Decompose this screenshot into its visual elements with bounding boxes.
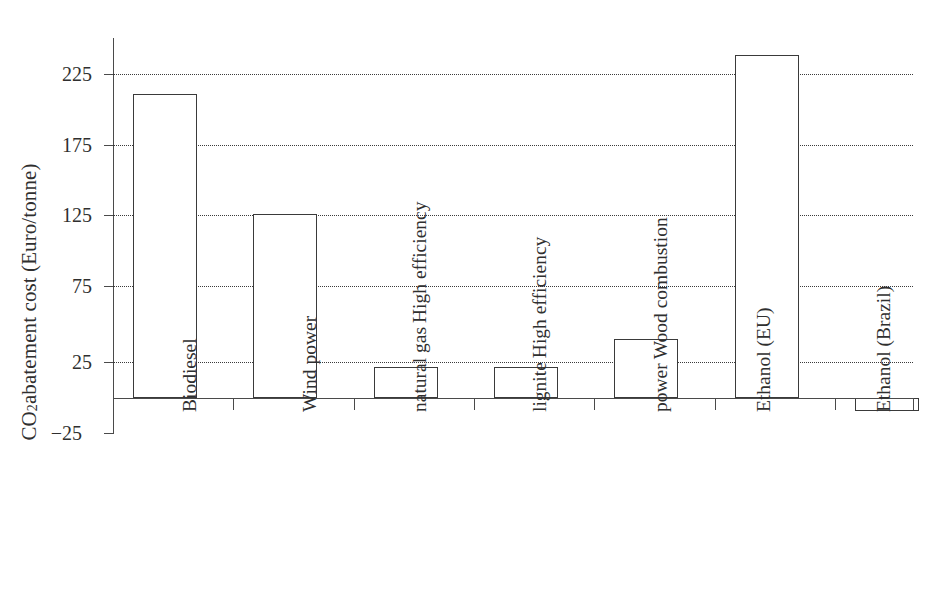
- y-tick-label-minus25: −25: [12, 423, 82, 443]
- y-tick-25: [104, 362, 113, 363]
- y-tick-minus25: [104, 433, 113, 434]
- y-tick-label-175: 175: [22, 135, 92, 155]
- x-category-line: High efficiency: [529, 237, 551, 358]
- y-tick-225: [104, 74, 113, 75]
- x-category-line: Wind power: [299, 316, 321, 412]
- x-category-line: High efficiency: [409, 202, 431, 323]
- x-category-line: Ethanol (EU): [753, 307, 775, 412]
- x-category-line: power: [650, 363, 672, 412]
- y-tick-label-25: 25: [22, 352, 92, 372]
- y-axis-title-subscript: 2: [25, 404, 41, 411]
- x-category-line: lignite: [529, 362, 551, 412]
- x-tick-0: [113, 398, 114, 410]
- x-tick-2: [354, 398, 355, 410]
- chart-figure: CO2 abatement cost (Euro/tonne) 225 175 …: [0, 0, 938, 604]
- x-category-line: Ethanol (Brazil): [873, 286, 895, 412]
- y-tick-label-225: 225: [22, 64, 92, 84]
- x-category-line: Biodiesel: [179, 338, 201, 412]
- x-category-line: Wood combustion: [650, 217, 672, 359]
- x-tick-1: [233, 398, 234, 410]
- x-tick-7: [913, 398, 914, 410]
- x-tick-5: [715, 398, 716, 410]
- y-axis-title: CO2 abatement cost (Euro/tonne): [0, 0, 58, 604]
- x-tick-4: [594, 398, 595, 410]
- y-tick-label-75: 75: [22, 276, 92, 296]
- y-tick-75: [104, 286, 113, 287]
- y-tick-175: [104, 145, 113, 146]
- y-tick-label-125: 125: [22, 205, 92, 225]
- x-tick-6: [835, 398, 836, 410]
- plot-area: [113, 40, 913, 398]
- y-tick-125: [104, 215, 113, 216]
- x-tick-3: [474, 398, 475, 410]
- x-category-line: natural gas: [409, 327, 431, 412]
